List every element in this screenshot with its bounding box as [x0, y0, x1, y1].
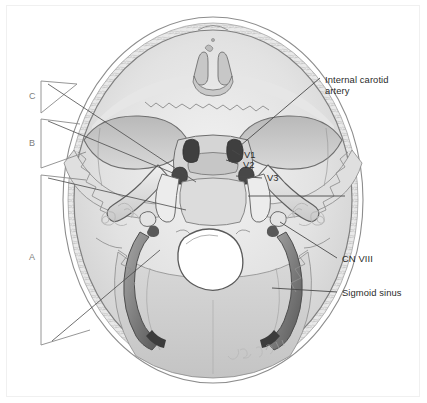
clivus — [180, 178, 247, 226]
foramen-magnum — [178, 229, 243, 290]
bracket-b-top — [41, 119, 80, 124]
sella-and-clivus — [172, 135, 254, 226]
label-cn-viii: CN VIII — [342, 253, 373, 265]
label-internal-carotid-artery-line1: Internal carotid — [325, 74, 389, 86]
label-sigmoid-sinus: Sigmoid sinus — [342, 287, 402, 299]
label-v3: V3 — [267, 172, 278, 183]
skull-base-illustration — [0, 0, 427, 403]
bracket-label-a: A — [29, 252, 35, 262]
bracket-label-b: B — [29, 138, 35, 148]
bracket-a-bottom-diag — [41, 330, 90, 345]
iac-left — [140, 212, 156, 227]
carotid-canal-left — [183, 139, 199, 162]
bracket-label-c: C — [29, 91, 36, 101]
bracket-c-bottom-diag — [41, 84, 77, 113]
label-v2: V2 — [243, 159, 254, 170]
carotid-canal-right — [227, 139, 243, 162]
label-internal-carotid-artery-line2: artery — [325, 85, 350, 97]
figure-canvas: Internal carotid artery V1 V2 V3 CN VIII… — [0, 0, 427, 403]
bracket-c-top — [41, 81, 77, 84]
